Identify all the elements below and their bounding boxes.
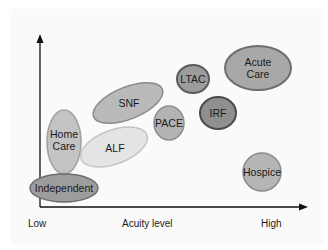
x-axis-low-label: Low — [28, 218, 47, 229]
svg-text:Care: Care — [247, 68, 270, 80]
x-axis — [40, 204, 308, 211]
node-acute-care: Acute Care — [225, 46, 291, 90]
svg-text:ALF: ALF — [105, 142, 124, 154]
svg-text:IRF: IRF — [210, 107, 227, 119]
svg-text:PACE: PACE — [155, 117, 183, 129]
node-independent: Independent — [30, 174, 98, 202]
node-irf: IRF — [200, 97, 236, 129]
node-home-care: Home Care — [47, 110, 81, 174]
svg-text:Care: Care — [53, 140, 76, 152]
x-axis-high-label: High — [261, 218, 282, 229]
svg-text:Home: Home — [50, 128, 78, 140]
node-ltac: LTAC — [177, 65, 209, 93]
svg-text:Independent: Independent — [35, 182, 93, 194]
x-axis-arrow-icon — [299, 204, 308, 211]
y-axis-arrow-icon — [37, 34, 44, 43]
node-hospice: Hospice — [243, 153, 281, 191]
svg-text:LTAC: LTAC — [180, 73, 206, 85]
node-alf: ALF — [75, 119, 152, 175]
node-pace: PACE — [154, 106, 184, 140]
svg-text:Acute: Acute — [245, 56, 272, 68]
acuity-diagram: SNF LTAC Acute Care IRF PACE Home Care A… — [0, 0, 328, 250]
svg-text:Hospice: Hospice — [243, 166, 281, 178]
svg-text:SNF: SNF — [119, 97, 140, 109]
x-axis-title: Acuity level — [122, 218, 173, 229]
